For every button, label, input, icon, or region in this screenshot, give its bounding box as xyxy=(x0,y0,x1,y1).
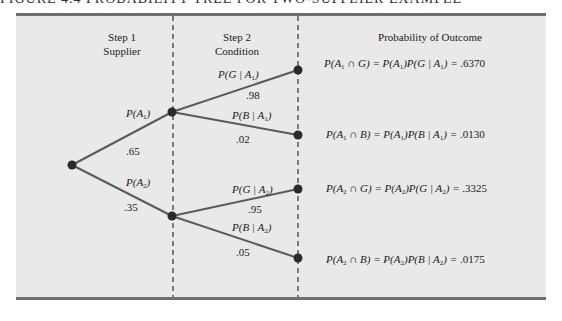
branch-a2 xyxy=(72,165,172,216)
leaf-a2-g xyxy=(294,185,303,194)
label-p-g-a2: P(G | A2) xyxy=(232,183,273,197)
label-p-b-a2: P(B | A2) xyxy=(232,221,271,235)
tree-diagram xyxy=(0,0,562,321)
value-p-b-a1: .02 xyxy=(236,133,250,145)
step1-header: Step 1 Supplier xyxy=(92,30,152,58)
step2-subtitle: Condition xyxy=(205,44,269,58)
step2-header: Step 2 Condition xyxy=(205,30,269,58)
label-p-a1: P(A1) xyxy=(126,107,150,121)
label-p-a2: P(A2) xyxy=(126,176,150,190)
value-p-b-a2: .05 xyxy=(236,246,250,258)
leaf-a1-g xyxy=(294,66,303,75)
value-p-g-a2: .95 xyxy=(248,203,262,215)
label-p-g-a1: P(G | A1) xyxy=(218,68,259,82)
node-a1 xyxy=(168,108,177,117)
step1-subtitle: Supplier xyxy=(92,44,152,58)
value-p-a1: .65 xyxy=(126,145,140,157)
label-p-b-a1: P(B | A1) xyxy=(232,109,271,123)
outcome-a1-g: P(A1 ∩ G) = P(A1)P(G | A1) = .6370 xyxy=(324,57,485,71)
leaf-a2-b xyxy=(294,254,303,263)
node-a2 xyxy=(168,212,177,221)
outcome-a2-b-value: .0175 xyxy=(460,253,485,265)
branch-a1 xyxy=(72,112,172,165)
outcome-a2-g-value: .3325 xyxy=(462,182,487,194)
root-node xyxy=(68,161,77,170)
outcome-a1-b: P(A1 ∩ B) = P(A1)P(B | A1) = .0130 xyxy=(326,128,485,142)
step2-title: Step 2 xyxy=(205,30,269,44)
leaf-a1-b xyxy=(294,131,303,140)
outcome-a2-g: P(A2 ∩ G) = P(A2)P(G | A2) = .3325 xyxy=(326,182,487,196)
value-p-a2: .35 xyxy=(124,201,138,213)
outcome-header: Probability of Outcome xyxy=(350,30,510,44)
outcome-a1-b-value: .0130 xyxy=(460,128,485,140)
outcome-a1-g-value: .6370 xyxy=(460,57,485,69)
outcome-a2-b: P(A2 ∩ B) = P(A2)P(B | A2) = .0175 xyxy=(326,253,485,267)
value-p-g-a1: .98 xyxy=(246,89,260,101)
step1-title: Step 1 xyxy=(92,30,152,44)
